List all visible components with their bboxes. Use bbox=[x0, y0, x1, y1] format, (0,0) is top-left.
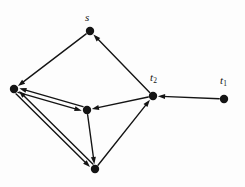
graph-node bbox=[91, 165, 99, 173]
edge-arrowhead bbox=[92, 105, 100, 110]
graph-canvas bbox=[0, 0, 245, 187]
graph-node bbox=[83, 106, 91, 114]
node-label-subscript: 2 bbox=[153, 76, 157, 85]
graph-edge bbox=[93, 35, 149, 93]
graph-edge bbox=[18, 92, 82, 111]
graph-edge bbox=[19, 88, 83, 107]
graph-node bbox=[10, 85, 18, 93]
graph-edge bbox=[158, 94, 219, 99]
node-label-t1: t1 bbox=[220, 75, 227, 86]
node-label-t2: t2 bbox=[150, 72, 157, 83]
edge-arrowhead bbox=[158, 94, 165, 99]
edge-arrowhead bbox=[74, 106, 82, 111]
graph-edge bbox=[92, 97, 149, 110]
graph-edge bbox=[19, 91, 93, 164]
graph-node bbox=[220, 95, 228, 103]
graph-figure: st2t1 bbox=[0, 0, 245, 187]
graph-node bbox=[149, 92, 157, 100]
node-label-subscript: 1 bbox=[223, 79, 227, 88]
node-label-base: s bbox=[85, 11, 89, 23]
node-label-s: s bbox=[85, 12, 89, 23]
graph-edge bbox=[98, 100, 150, 165]
edge-layer bbox=[16, 34, 219, 167]
graph-node bbox=[86, 27, 94, 35]
graph-edge bbox=[88, 115, 96, 164]
graph-edge bbox=[18, 34, 86, 86]
